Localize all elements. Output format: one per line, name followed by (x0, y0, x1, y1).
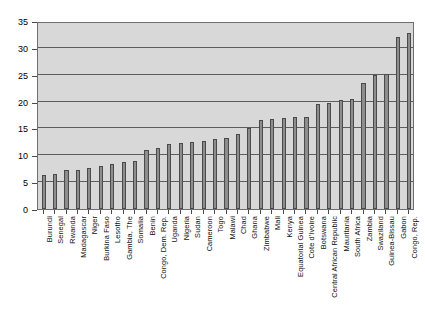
x-tick-mark (237, 210, 238, 214)
y-tick-label: 5 (23, 179, 28, 188)
x-tick-mark (43, 210, 44, 214)
bar (259, 120, 263, 209)
x-tick-mark (100, 210, 101, 214)
bar (122, 162, 126, 209)
x-tick-label: Gabon (400, 216, 407, 239)
x-tick-label: Rwanda (69, 216, 76, 244)
x-tick-mark (77, 210, 78, 214)
x-tick-label: Sudan (194, 216, 201, 238)
x-tick-label: Kenya (286, 216, 293, 237)
bar (304, 117, 308, 209)
x-tick-label: Congo, Dem. Rep. (160, 216, 167, 279)
bar (133, 161, 137, 209)
y-axis: 05101520253035 (0, 0, 37, 334)
x-tick-mark (328, 210, 329, 214)
bar (373, 75, 377, 209)
y-tick-label: 20 (18, 98, 28, 107)
x-tick-label: Botswana (320, 216, 327, 249)
plot-area (37, 22, 414, 210)
bar (53, 174, 57, 209)
x-tick-label: Burkina Faso (103, 216, 110, 261)
x-tick-label: Ghana (251, 216, 258, 239)
bars-layer (38, 23, 413, 209)
x-tick-mark (385, 210, 386, 214)
x-tick-mark (363, 210, 364, 214)
x-tick-label: Zambia (366, 216, 373, 241)
x-tick-mark (317, 210, 318, 214)
x-axis: BurundiSenegalRwandaMadagascarNigerBurki… (37, 210, 414, 334)
bar (396, 37, 400, 209)
bar (361, 83, 365, 209)
x-tick-label: Malawi (229, 216, 236, 240)
x-tick-mark (168, 210, 169, 214)
y-tick-label: 30 (18, 44, 28, 53)
x-tick-mark (180, 210, 181, 214)
bar (167, 144, 171, 209)
y-tick-label: 15 (18, 125, 28, 134)
bar (316, 104, 320, 209)
x-tick-label: Cote d'Ivoire (308, 216, 315, 259)
x-tick-label: Somalia (137, 216, 144, 243)
x-tick-label: Uganda (171, 216, 178, 243)
bar (282, 118, 286, 209)
bar (110, 164, 114, 209)
bar-chart: 05101520253035 BurundiSenegalRwandaMadag… (0, 0, 425, 334)
x-tick-mark (157, 210, 158, 214)
x-tick-mark (123, 210, 124, 214)
x-tick-mark (271, 210, 272, 214)
x-tick-label: Mauritania (343, 216, 350, 252)
bar (64, 170, 68, 209)
x-tick-mark (260, 210, 261, 214)
x-tick-label: South Africa (354, 216, 361, 257)
x-tick-label: Niger (91, 216, 98, 234)
x-tick-label: Senegal (57, 216, 64, 244)
x-tick-label: Chad (240, 216, 247, 234)
bar (350, 99, 354, 209)
x-tick-label: Swaziland (377, 216, 384, 251)
bar (236, 134, 240, 209)
bar (270, 119, 274, 209)
x-tick-mark (191, 210, 192, 214)
x-tick-mark (134, 210, 135, 214)
x-tick-label: Cameroon (206, 216, 213, 251)
bar (76, 170, 80, 209)
bar (224, 138, 228, 209)
x-tick-label: Gambia, The (126, 216, 133, 260)
x-tick-label: Lesotho (114, 216, 121, 243)
bar (179, 143, 183, 209)
x-tick-label: Zimbabwe (263, 216, 270, 251)
x-tick-mark (374, 210, 375, 214)
bar (190, 142, 194, 209)
bar (99, 166, 103, 209)
x-tick-mark (340, 210, 341, 214)
bar (87, 168, 91, 209)
bar (247, 128, 251, 209)
x-tick-mark (66, 210, 67, 214)
x-tick-mark (54, 210, 55, 214)
x-tick-mark (88, 210, 89, 214)
x-tick-label: Equatorial Guinea (297, 216, 304, 277)
x-tick-mark (248, 210, 249, 214)
bar (339, 100, 343, 209)
bar (327, 103, 331, 209)
bar (407, 33, 411, 209)
bar (384, 74, 388, 209)
x-tick-label: Mali (274, 216, 281, 230)
x-tick-mark (146, 210, 147, 214)
x-tick-mark (408, 210, 409, 214)
x-tick-mark (283, 210, 284, 214)
y-tick-label: 25 (18, 71, 28, 80)
x-tick-label: Togo (217, 216, 224, 232)
x-tick-label: Madagascar (80, 216, 87, 258)
bar (144, 150, 148, 209)
x-tick-mark (397, 210, 398, 214)
bar (293, 117, 297, 209)
x-tick-mark (305, 210, 306, 214)
x-tick-mark (351, 210, 352, 214)
x-tick-label: Burundi (46, 216, 53, 242)
x-tick-label: Guinea-Bissau (388, 216, 395, 266)
y-tick-label: 10 (18, 152, 28, 161)
x-tick-label: Nigeria (183, 216, 190, 240)
x-tick-mark (203, 210, 204, 214)
y-tick-label: 35 (18, 18, 28, 27)
